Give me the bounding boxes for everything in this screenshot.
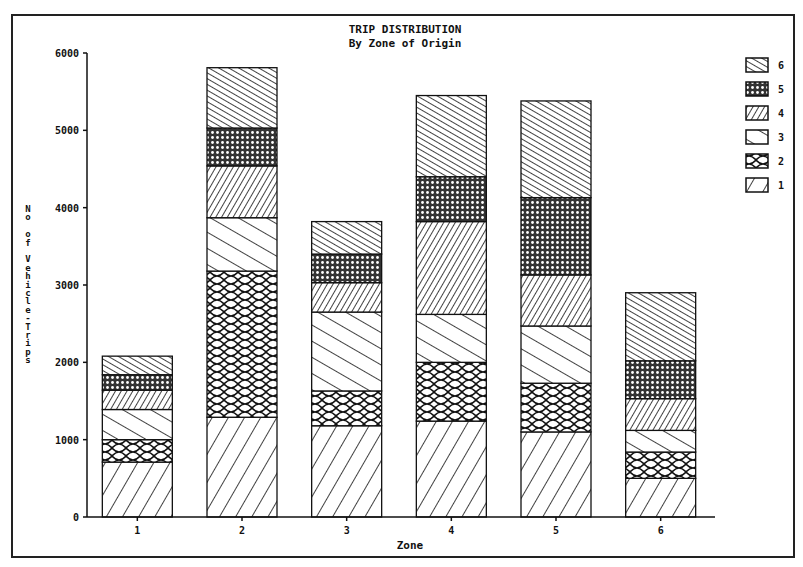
bar-segment-1 [102, 462, 172, 517]
bar-segment-2 [207, 271, 277, 417]
bar-segment-5 [521, 198, 591, 275]
legend-label: 1 [778, 180, 784, 191]
legend-item-2: 2 [746, 154, 784, 168]
legend-label: 6 [778, 60, 784, 71]
y-tick-label: 2000 [55, 357, 79, 368]
bar-segment-5 [312, 254, 382, 283]
y-tick-label: 0 [73, 512, 79, 523]
bar-segment-4 [521, 275, 591, 326]
legend-item-3: 3 [746, 130, 784, 144]
bar-segment-3 [312, 312, 382, 391]
legend: 654321 [746, 58, 784, 192]
bar-segment-5 [416, 177, 486, 222]
legend-label: 3 [778, 132, 784, 143]
bar-zone-6 [626, 293, 696, 517]
legend-swatch [746, 178, 768, 192]
bar-segment-1 [626, 478, 696, 517]
y-label-char: f [25, 238, 30, 248]
legend-item-4: 4 [746, 106, 784, 120]
bar-zone-4 [416, 96, 486, 517]
bar-segment-5 [626, 361, 696, 399]
bar-segment-1 [521, 432, 591, 517]
bar-segment-3 [102, 410, 172, 440]
bar-segment-4 [312, 283, 382, 312]
bar-segment-4 [102, 390, 172, 409]
bar-segment-6 [207, 68, 277, 128]
bar-zone-1 [102, 356, 172, 517]
legend-label: 5 [778, 84, 784, 95]
y-tick-label: 5000 [55, 125, 79, 136]
legend-swatch [746, 82, 768, 96]
bar-segment-1 [207, 417, 277, 517]
bar-segment-2 [626, 452, 696, 478]
bar-segment-3 [416, 314, 486, 362]
y-axis-label: NoofVehicle-Trips [25, 204, 31, 365]
bar-segment-3 [521, 326, 591, 383]
legend-swatch [746, 58, 768, 72]
legend-label: 2 [778, 156, 784, 167]
bar-zone-3 [312, 222, 382, 517]
bar-segment-6 [626, 293, 696, 361]
legend-item-6: 6 [746, 58, 784, 72]
bar-segment-2 [521, 383, 591, 432]
x-tick-label: 2 [239, 525, 245, 536]
y-tick-label: 3000 [55, 280, 79, 291]
bar-segment-4 [626, 399, 696, 431]
y-label-char: o [25, 212, 30, 222]
y-tick-label: 4000 [55, 203, 79, 214]
legend-label: 4 [778, 108, 784, 119]
x-axis: 123456 [87, 517, 715, 536]
bar-segment-2 [102, 440, 172, 462]
legend-item-5: 5 [746, 82, 784, 96]
x-tick-label: 5 [553, 525, 559, 536]
bar-zone-2 [207, 68, 277, 517]
bar-zone-5 [521, 101, 591, 517]
y-axis: 0100020003000400050006000 [55, 48, 87, 523]
x-tick-label: 1 [134, 525, 140, 536]
x-tick-label: 6 [658, 525, 664, 536]
bar-segment-6 [102, 356, 172, 375]
bar-segment-6 [312, 222, 382, 254]
bars [102, 68, 695, 517]
bar-segment-4 [207, 166, 277, 218]
y-tick-label: 1000 [55, 435, 79, 446]
legend-swatch [746, 154, 768, 168]
bar-segment-5 [207, 128, 277, 166]
bar-segment-4 [416, 222, 486, 315]
bar-segment-1 [416, 421, 486, 517]
bar-segment-3 [626, 430, 696, 452]
legend-item-1: 1 [746, 178, 784, 192]
chart-title: TRIP DISTRIBUTION [349, 23, 462, 36]
x-tick-label: 4 [448, 525, 454, 536]
bar-segment-3 [207, 218, 277, 271]
bar-segment-1 [312, 426, 382, 517]
bar-segment-2 [416, 362, 486, 421]
bar-segment-6 [416, 96, 486, 177]
legend-swatch [746, 130, 768, 144]
bar-segment-6 [521, 101, 591, 198]
bar-segment-5 [102, 375, 172, 390]
stacked-bar-chart: TRIP DISTRIBUTION By Zone of Origin 0100… [0, 0, 803, 567]
y-label-char: s [25, 355, 30, 365]
bar-segment-2 [312, 391, 382, 426]
x-axis-label: Zone [397, 539, 424, 552]
y-tick-label: 6000 [55, 48, 79, 59]
chart-subtitle: By Zone of Origin [349, 37, 462, 50]
legend-swatch [746, 106, 768, 120]
x-tick-label: 3 [344, 525, 350, 536]
